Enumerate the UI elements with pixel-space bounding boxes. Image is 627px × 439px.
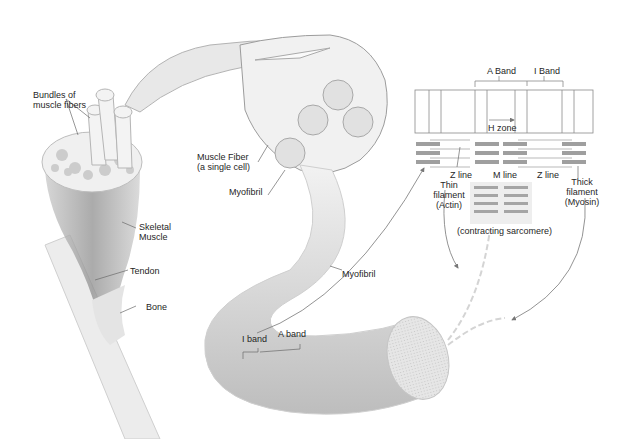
label-a-band-small: A band — [278, 329, 306, 339]
label-muscle-fiber: Muscle Fiber (a single cell) — [197, 152, 250, 172]
label-thick-line2: filament — [562, 187, 602, 197]
label-contracting-sarcomere: (contracting sarcomere) — [457, 226, 552, 236]
label-z-line-left: Z line — [450, 170, 472, 180]
filament-wisps — [448, 230, 505, 345]
label-skeletal-muscle: Skeletal Muscle — [139, 222, 171, 242]
muscle-bundles — [87, 89, 132, 168]
label-thin-line1: Thin — [430, 180, 468, 190]
label-bundles-line2: muscle fibers — [33, 100, 86, 110]
label-h-zone: H zone — [488, 123, 517, 133]
label-myofibril-top: Myofibril — [229, 187, 263, 197]
label-thick-filament: Thick filament (Myosin) — [562, 177, 602, 207]
label-skeletal-line2: Muscle — [139, 232, 171, 242]
label-thick-line1: Thick — [562, 177, 602, 187]
label-tendon: Tendon — [130, 266, 160, 276]
label-bundles: Bundles of muscle fibers — [33, 90, 86, 110]
muscle-structure-illustration — [0, 0, 627, 439]
myofibril-tube — [205, 165, 458, 414]
label-fiber-line2: (a single cell) — [197, 162, 250, 172]
label-bone: Bone — [146, 302, 167, 312]
label-i-band-small: I band — [242, 334, 267, 344]
filament-rows — [416, 142, 586, 164]
label-myofibril-mid: Myofibril — [342, 269, 376, 279]
label-skeletal-line1: Skeletal — [139, 222, 171, 232]
contracting-sarcomere — [470, 182, 532, 224]
label-thin-line3: (Actin) — [430, 200, 468, 210]
label-thick-line3: (Myosin) — [562, 197, 602, 207]
label-thin-filament: Thin filament (Actin) — [430, 180, 468, 210]
thin-filaments — [430, 140, 572, 167]
label-z-line-right: Z line — [537, 170, 559, 180]
label-a-band: A Band — [487, 66, 516, 76]
label-bundles-line1: Bundles of — [33, 90, 86, 100]
label-i-band: I Band — [534, 66, 560, 76]
label-thin-line2: filament — [430, 190, 468, 200]
label-m-line: M line — [493, 170, 517, 180]
label-fiber-line1: Muscle Fiber — [197, 152, 250, 162]
muscle-fiber-shape — [125, 35, 387, 173]
